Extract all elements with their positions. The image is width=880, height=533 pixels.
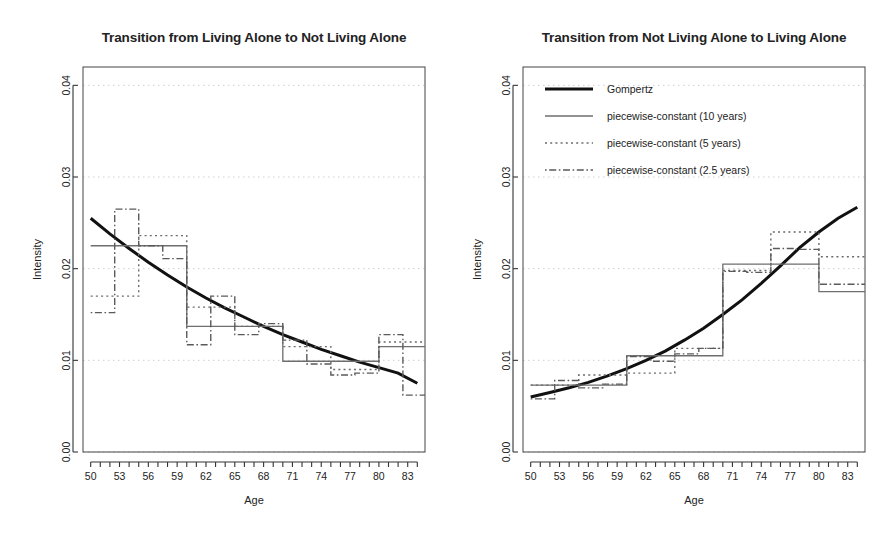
- x-tick-label-0: 50: [525, 470, 537, 482]
- x-tick-label-3: 59: [171, 470, 183, 482]
- y-tick-label-0: 0.00: [500, 442, 512, 463]
- y-axis-title: Intensity: [471, 239, 483, 280]
- y-tick-label-4: 0.04: [60, 75, 72, 96]
- x-tick-label-6: 68: [698, 470, 710, 482]
- x-tick-label-5: 65: [229, 470, 241, 482]
- plot-frame: [523, 67, 865, 452]
- x-tick-label-3: 59: [611, 470, 623, 482]
- y-tick-label-0: 0.00: [60, 442, 72, 463]
- chart-svg-right: Transition from Not Living Alone to Livi…: [440, 0, 880, 533]
- y-tick-label-3: 0.03: [60, 167, 72, 188]
- x-tick-label-7: 71: [727, 470, 739, 482]
- chart-panel-left: Transition from Living Alone to Not Livi…: [0, 0, 440, 533]
- y-tick-label-4: 0.04: [500, 75, 512, 96]
- legend-label-2: piecewise-constant (5 years): [607, 137, 741, 149]
- series-dotted: [531, 232, 865, 385]
- series-dashdot: [531, 249, 865, 399]
- legend-label-3: piecewise-constant (2.5 years): [607, 164, 749, 176]
- chart-panel-right: Transition from Not Living Alone to Livi…: [440, 0, 880, 533]
- y-tick-label-2: 0.02: [500, 258, 512, 279]
- x-tick-label-2: 56: [142, 470, 154, 482]
- x-tick-label-2: 56: [582, 470, 594, 482]
- legend-label-1: piecewise-constant (10 years): [607, 110, 746, 122]
- x-tick-label-8: 74: [315, 470, 327, 482]
- x-tick-label-11: 83: [402, 470, 414, 482]
- legend-label-0: Gompertz: [607, 83, 653, 95]
- y-tick-label-1: 0.01: [500, 350, 512, 371]
- x-axis-title: Age: [684, 494, 704, 506]
- x-tick-label-6: 68: [258, 470, 270, 482]
- x-tick-label-1: 53: [554, 470, 566, 482]
- series-solid-thick: [531, 207, 858, 397]
- y-tick-label-2: 0.02: [60, 258, 72, 279]
- x-tick-label-4: 62: [640, 470, 652, 482]
- x-tick-label-10: 80: [813, 470, 825, 482]
- chart-svg-left: Transition from Living Alone to Not Livi…: [0, 0, 440, 533]
- y-tick-label-3: 0.03: [500, 167, 512, 188]
- x-tick-label-9: 77: [344, 470, 356, 482]
- series-solid-thin: [91, 246, 425, 362]
- x-tick-label-4: 62: [200, 470, 212, 482]
- x-tick-label-9: 77: [784, 470, 796, 482]
- series-solid-thin: [531, 264, 865, 385]
- x-axis-title: Age: [244, 494, 264, 506]
- y-axis-title: Intensity: [31, 239, 43, 280]
- panel-title: Transition from Living Alone to Not Livi…: [102, 30, 407, 45]
- x-tick-label-8: 74: [755, 470, 767, 482]
- x-tick-label-0: 50: [85, 470, 97, 482]
- x-tick-label-7: 71: [287, 470, 299, 482]
- x-tick-label-11: 83: [842, 470, 854, 482]
- panel-title: Transition from Not Living Alone to Livi…: [542, 30, 847, 45]
- x-tick-label-5: 65: [669, 470, 681, 482]
- plot-frame: [83, 67, 425, 452]
- x-tick-label-1: 53: [114, 470, 126, 482]
- x-tick-label-10: 80: [373, 470, 385, 482]
- figure-root: Transition from Living Alone to Not Livi…: [0, 0, 880, 533]
- series-solid-thick: [91, 218, 418, 383]
- y-tick-label-1: 0.01: [60, 350, 72, 371]
